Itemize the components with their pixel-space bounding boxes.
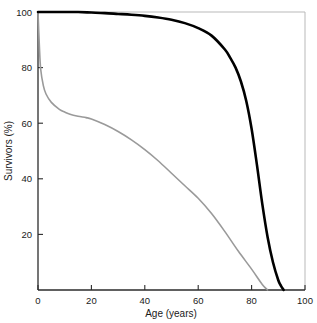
y-tick-label-20: 20 (21, 229, 32, 240)
x-tick-label-80: 80 (246, 295, 257, 306)
x-tick-label-60: 60 (193, 295, 204, 306)
x-tick-label-20: 20 (86, 295, 97, 306)
survival-curve-figure: 020406080100 20406080100 Age (years) Sur… (0, 0, 317, 323)
x-axis-title: Age (years) (145, 308, 197, 319)
y-axis-title: Survivors (%) (3, 121, 14, 181)
x-tick-label-100: 100 (297, 295, 313, 306)
y-tick-label-40: 40 (21, 173, 32, 184)
y-tick-label-80: 80 (21, 62, 32, 73)
x-tick-label-0: 0 (35, 295, 40, 306)
y-tick-label-60: 60 (21, 118, 32, 129)
y-tick-label-100: 100 (16, 7, 32, 18)
chart-canvas: 020406080100 20406080100 Age (years) Sur… (0, 0, 317, 323)
x-tick-label-40: 40 (140, 295, 151, 306)
